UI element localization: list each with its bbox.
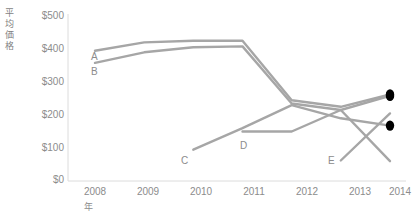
- series-label-c: C: [181, 155, 188, 166]
- x-axis-title: 年: [84, 200, 93, 213]
- x-tick-label: 2012: [287, 186, 327, 197]
- x-tick-label: 2014: [380, 186, 412, 197]
- series-label-a: A: [91, 51, 98, 62]
- chart-root: 平 均 価 格 $500 $400 $300 $200 $100 $0 2008…: [0, 0, 412, 221]
- x-tick-label: 2009: [128, 186, 168, 197]
- endpoint-marker-b: [386, 91, 394, 101]
- x-tick-label: 2010: [181, 186, 221, 197]
- x-tick-label: 2011: [234, 186, 274, 197]
- x-tick-label: 2008: [75, 186, 115, 197]
- endpoint-marker-c: [386, 120, 394, 130]
- series-line-b: [95, 46, 390, 110]
- series-label-b: B: [91, 66, 98, 77]
- series-label-e: E: [328, 155, 335, 166]
- x-tick-label: 2013: [340, 186, 380, 197]
- series-line-a: [95, 41, 390, 107]
- series-endpoint-markers: [386, 89, 394, 131]
- series-label-d: D: [240, 140, 247, 151]
